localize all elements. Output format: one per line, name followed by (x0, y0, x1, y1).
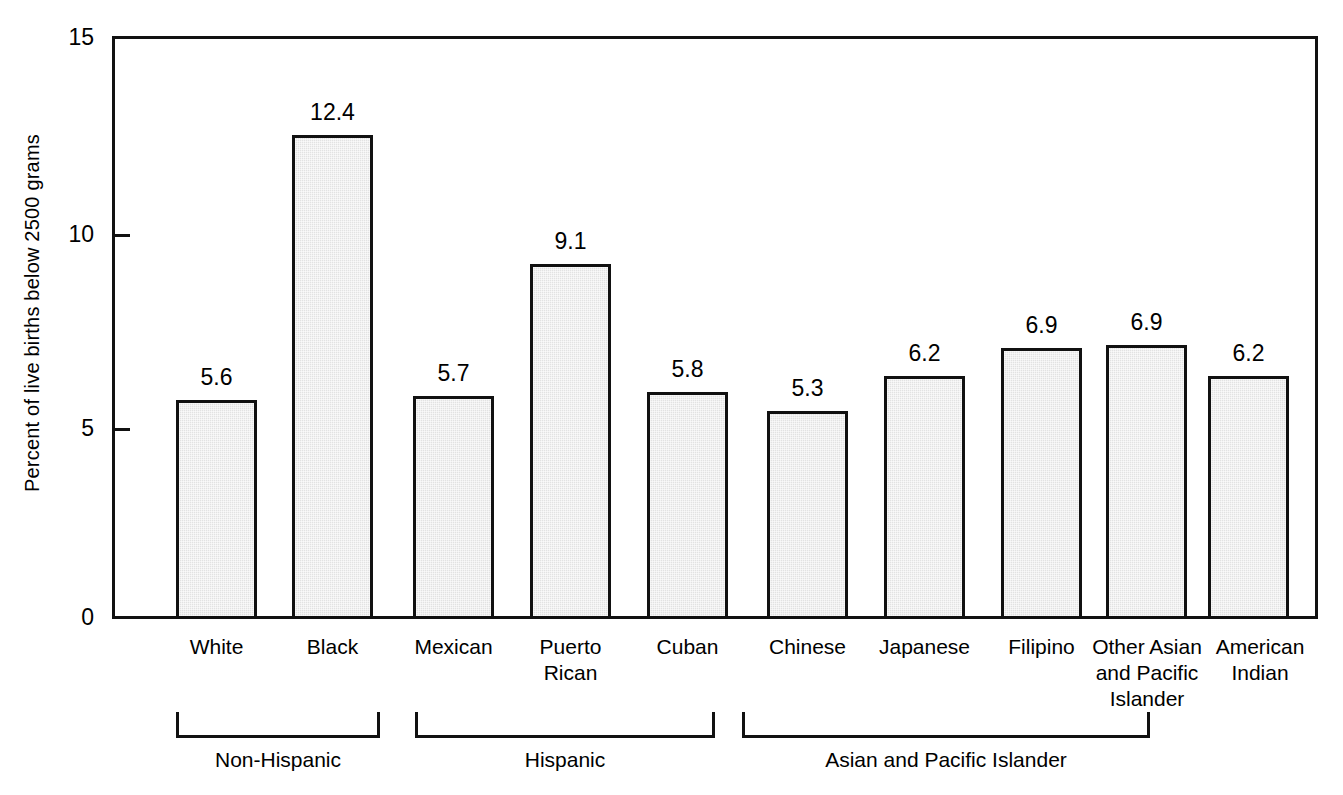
bar-black[interactable] (292, 135, 373, 619)
category-label-mexican: Mexican (393, 634, 514, 660)
bar-white[interactable] (176, 400, 257, 619)
bar-value-filipino: 6.9 (981, 314, 1102, 337)
bar-value-cuban: 5.8 (627, 358, 748, 381)
category-label-chinese: Chinese (747, 634, 868, 660)
group-label-asian-and-pacific-islander: Asian and Pacific Islander (806, 748, 1086, 772)
category-label-white: White (156, 634, 277, 660)
y-tick-mark-10 (112, 234, 130, 237)
bar-chart: Percent of live births below 2500 grams … (0, 0, 1343, 795)
y-tick-mark-5 (112, 428, 130, 431)
group-label-non-hispanic: Non-Hispanic (158, 748, 398, 772)
bar-mexican[interactable] (413, 396, 494, 619)
y-axis-title: Percent of live births below 2500 grams (15, 33, 49, 593)
bar-japanese[interactable] (884, 376, 965, 619)
y-tick-label-5: 5 (34, 417, 94, 440)
bar-filipino[interactable] (1001, 348, 1082, 619)
bar-chinese[interactable] (767, 411, 848, 619)
category-label-other-asian-pacific-islander: Other Asian and Pacific Islander (1083, 634, 1211, 712)
bar-cuban[interactable] (647, 392, 728, 619)
group-label-hispanic: Hispanic (445, 748, 685, 772)
bar-value-other-asian-pacific-islander: 6.9 (1086, 311, 1207, 334)
group-bracket-asian-and-pacific-islander (742, 712, 1150, 738)
category-label-black: Black (272, 634, 393, 660)
bar-american-indian[interactable] (1208, 376, 1289, 619)
bar-other-asian-pacific-islander[interactable] (1106, 345, 1187, 619)
bar-value-puerto-rican: 9.1 (510, 230, 631, 253)
y-tick-label-10: 10 (34, 223, 94, 246)
group-bracket-non-hispanic (176, 712, 380, 738)
y-tick-label-0: 0 (34, 606, 94, 629)
bar-value-american-indian: 6.2 (1188, 342, 1309, 365)
category-label-puerto-rican: Puerto Rican (510, 634, 631, 686)
category-label-cuban: Cuban (627, 634, 748, 660)
y-tick-label-15: 15 (34, 26, 94, 49)
bar-value-japanese: 6.2 (864, 342, 985, 365)
category-label-american-indian: American Indian (1196, 634, 1324, 686)
bar-value-chinese: 5.3 (747, 377, 868, 400)
bar-puerto-rican[interactable] (530, 264, 611, 619)
bar-value-mexican: 5.7 (393, 362, 514, 385)
group-bracket-hispanic (415, 712, 715, 738)
bar-value-black: 12.4 (272, 101, 393, 124)
category-label-japanese: Japanese (864, 634, 985, 660)
bar-value-white: 5.6 (156, 366, 277, 389)
